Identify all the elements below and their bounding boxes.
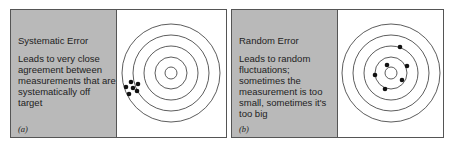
random-error-caption: Random Error Leads to random fluctuation… <box>232 10 338 137</box>
panel-description: Leads to random fluctuations; sometimes … <box>239 53 337 119</box>
panel-title: Systematic Error <box>18 35 88 46</box>
bullseye-icon <box>117 10 227 138</box>
panel-description: Leads to very close agreement between me… <box>18 53 116 108</box>
systematic-error-caption: Systematic Error Leads to very close agr… <box>11 10 117 137</box>
target-diagram-a <box>117 10 226 137</box>
bullseye-icon <box>338 10 444 138</box>
panel-label: (a) <box>18 124 28 134</box>
panel-title: Random Error <box>239 35 299 46</box>
random-error-panel: Random Error Leads to random fluctuation… <box>231 9 444 138</box>
panel-label: (b) <box>239 124 249 134</box>
target-diagram-b <box>338 10 443 137</box>
systematic-error-panel: Systematic Error Leads to very close agr… <box>10 9 227 138</box>
